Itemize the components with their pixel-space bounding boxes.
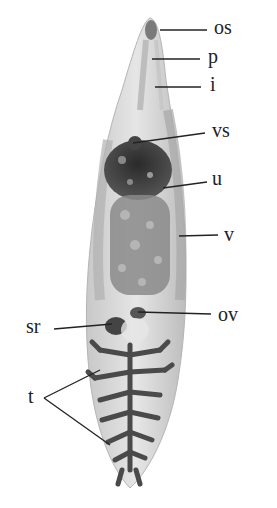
oral-sucker xyxy=(145,20,157,40)
label-uterus: u xyxy=(212,168,222,188)
label-testes: t xyxy=(28,386,34,406)
label-ovary: ov xyxy=(218,304,238,324)
label-vitellaria: v xyxy=(224,224,234,244)
specimen-illustration xyxy=(0,0,277,508)
label-seminal-receptacle: sr xyxy=(26,316,40,336)
label-ventral-sucker: vs xyxy=(212,120,230,140)
label-pharynx: p xyxy=(208,46,218,66)
ovary xyxy=(130,307,146,319)
label-intestine: i xyxy=(210,74,216,94)
label-oral-sucker: os xyxy=(214,17,232,37)
specimen-figure: os p i vs u v ov sr t xyxy=(0,0,277,508)
